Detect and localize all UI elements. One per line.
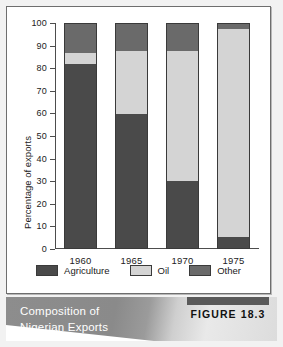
bar-segment-other xyxy=(65,24,96,53)
y-tick xyxy=(50,249,55,250)
bar-segment-oil xyxy=(218,29,249,237)
legend-swatch-oil xyxy=(130,265,152,276)
y-tick-label: 60 xyxy=(37,108,47,118)
chart-panel: 0102030405060708090100 Percentage of exp… xyxy=(6,6,271,294)
y-tick-label: 40 xyxy=(37,154,47,164)
y-tick-label: 20 xyxy=(37,199,47,209)
bar-segment-oil xyxy=(116,51,147,114)
figure-badge: FIGURE 18.3 xyxy=(183,297,273,320)
bar-segment-other xyxy=(167,24,198,51)
chart-legend: AgricultureOilOther xyxy=(7,265,270,276)
y-tick-label: 50 xyxy=(37,131,47,141)
legend-label-agriculture: Agriculture xyxy=(64,265,109,276)
legend-label-oil: Oil xyxy=(158,265,170,276)
bar-segment-agriculture xyxy=(65,64,96,248)
caption-text: Composition of Nigerian Exports xyxy=(20,303,108,335)
y-tick-label: 100 xyxy=(31,18,47,28)
caption-line-1: Composition of xyxy=(20,303,108,319)
plot-area: 0102030405060708090100 Percentage of exp… xyxy=(55,23,259,249)
bar-1965 xyxy=(115,23,148,249)
legend-label-other: Other xyxy=(217,265,241,276)
bar-segment-agriculture xyxy=(218,237,249,248)
bar-segment-oil xyxy=(167,51,198,181)
bar-1960 xyxy=(64,23,97,249)
figure-number-label: FIGURE 18.3 xyxy=(183,308,273,320)
legend-item-agriculture: Agriculture xyxy=(36,265,109,276)
y-tick-label: 90 xyxy=(37,41,47,51)
legend-item-other: Other xyxy=(189,265,241,276)
bar-1975 xyxy=(217,23,250,249)
legend-swatch-agriculture xyxy=(36,265,58,276)
y-tick-label: 30 xyxy=(37,176,47,186)
figure-container: 0102030405060708090100 Percentage of exp… xyxy=(0,0,283,347)
y-axis-label: Percentage of exports xyxy=(22,136,33,229)
y-tick-label: 0 xyxy=(42,244,47,254)
bar-segment-agriculture xyxy=(167,181,198,248)
bar-segment-oil xyxy=(65,53,96,64)
bar-segment-agriculture xyxy=(116,114,147,248)
bar-1970 xyxy=(166,23,199,249)
y-tick-label: 80 xyxy=(37,63,47,73)
caption-band: Composition of Nigerian Exports FIGURE 1… xyxy=(6,297,277,341)
figure-badge-bar xyxy=(187,297,269,305)
legend-item-oil: Oil xyxy=(130,265,170,276)
y-tick-label: 70 xyxy=(37,86,47,96)
y-tick-label: 10 xyxy=(37,221,47,231)
legend-swatch-other xyxy=(189,265,211,276)
caption-line-2: Nigerian Exports xyxy=(20,319,108,335)
bar-group xyxy=(55,23,259,249)
bar-segment-other xyxy=(116,24,147,51)
